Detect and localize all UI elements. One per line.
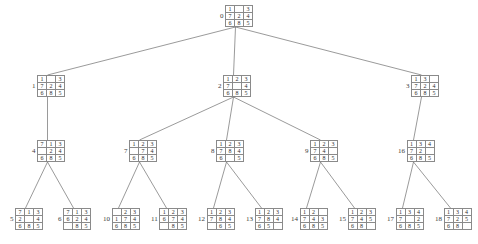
puzzle-tile: 6 bbox=[349, 223, 358, 230]
puzzle-blank-cell bbox=[235, 6, 244, 13]
tree-node: 471324685 bbox=[32, 140, 65, 162]
puzzle-tile: 6 bbox=[224, 90, 233, 97]
puzzle-tile: 4 bbox=[463, 209, 472, 216]
puzzle-blank-cell bbox=[430, 76, 439, 83]
tree-edge bbox=[26, 162, 48, 208]
puzzle-tile: 6 bbox=[301, 223, 310, 230]
puzzle-tile: 3 bbox=[56, 141, 65, 148]
node-id-label: 10 bbox=[103, 216, 112, 223]
puzzle-tile: 5 bbox=[235, 155, 244, 162]
puzzle-tile: 8 bbox=[320, 155, 329, 162]
puzzle-tile: 5 bbox=[226, 223, 235, 230]
puzzle-blank-cell bbox=[226, 155, 235, 162]
puzzle-blank-cell bbox=[208, 223, 217, 230]
puzzle-tile: 7 bbox=[397, 216, 406, 223]
puzzle-tile: 2 bbox=[122, 209, 131, 216]
puzzle-tile: 3 bbox=[131, 209, 140, 216]
puzzle-tile: 8 bbox=[226, 148, 235, 155]
puzzle-tile: 8 bbox=[233, 90, 242, 97]
puzzle-tile: 2 bbox=[226, 141, 235, 148]
puzzle-board: 71324685 bbox=[15, 208, 43, 230]
puzzle-tile: 8 bbox=[47, 90, 56, 97]
puzzle-tile: 2 bbox=[16, 216, 25, 223]
puzzle-tile: 1 bbox=[160, 209, 169, 216]
tree-node: 712374685 bbox=[124, 140, 157, 162]
puzzle-tile: 1 bbox=[311, 141, 320, 148]
puzzle-tile: 7 bbox=[64, 209, 73, 216]
puzzle-blank-cell bbox=[319, 209, 328, 216]
tree-edge bbox=[414, 162, 451, 208]
puzzle-tile: 2 bbox=[47, 83, 56, 90]
tree-node: 1412743685 bbox=[291, 208, 328, 230]
puzzle-tile: 5 bbox=[265, 223, 274, 230]
puzzle-tile: 1 bbox=[445, 209, 454, 216]
tree-node: 1512374568 bbox=[339, 208, 376, 230]
puzzle-tile: 7 bbox=[208, 216, 217, 223]
tree-edge bbox=[403, 162, 414, 208]
puzzle-tile: 2 bbox=[265, 209, 274, 216]
puzzle-tile: 1 bbox=[47, 141, 56, 148]
puzzle-tile: 1 bbox=[408, 141, 417, 148]
puzzle-tile: 6 bbox=[412, 90, 421, 97]
node-id-label: 14 bbox=[291, 216, 300, 223]
puzzle-blank-cell bbox=[25, 216, 34, 223]
puzzle-tile: 2 bbox=[358, 209, 367, 216]
puzzle-tile: 4 bbox=[82, 216, 91, 223]
puzzle-tile: 5 bbox=[82, 223, 91, 230]
puzzle-tile: 4 bbox=[56, 83, 65, 90]
puzzle-tile: 7 bbox=[122, 216, 131, 223]
puzzle-tile: 3 bbox=[367, 209, 376, 216]
puzzle-tile: 7 bbox=[169, 216, 178, 223]
puzzle-tile: 1 bbox=[25, 209, 34, 216]
puzzle-tile: 8 bbox=[421, 90, 430, 97]
node-id-label: 15 bbox=[339, 216, 348, 223]
puzzle-tile: 3 bbox=[242, 76, 251, 83]
puzzle-tile: 8 bbox=[217, 216, 226, 223]
puzzle-tile: 1 bbox=[349, 209, 358, 216]
puzzle-tile: 4 bbox=[226, 216, 235, 223]
puzzle-tile: 2 bbox=[415, 216, 424, 223]
node-id-label: 17 bbox=[387, 216, 396, 223]
puzzle-tile: 5 bbox=[367, 216, 376, 223]
puzzle-tile: 6 bbox=[38, 90, 47, 97]
puzzle-tile: 4 bbox=[148, 148, 157, 155]
puzzle-tile: 5 bbox=[131, 223, 140, 230]
puzzle-blank-cell bbox=[367, 223, 376, 230]
puzzle-tile: 5 bbox=[463, 216, 472, 223]
puzzle-tile: 2 bbox=[310, 209, 319, 216]
puzzle-board: 12378465 bbox=[207, 208, 235, 230]
puzzle-tile: 3 bbox=[406, 209, 415, 216]
tree-edge bbox=[119, 162, 140, 208]
puzzle-tile: 2 bbox=[320, 141, 329, 148]
puzzle-tile: 7 bbox=[38, 83, 47, 90]
tree-node: 1212378465 bbox=[198, 208, 235, 230]
puzzle-tile: 5 bbox=[426, 155, 435, 162]
tree-edge bbox=[414, 97, 422, 140]
puzzle-tile: 6 bbox=[256, 223, 265, 230]
puzzle-tile: 4 bbox=[34, 216, 43, 223]
puzzle-board: 23174685 bbox=[112, 208, 140, 230]
puzzle-tile: 8 bbox=[417, 155, 426, 162]
puzzle-tile: 6 bbox=[217, 155, 226, 162]
puzzle-tile: 8 bbox=[310, 223, 319, 230]
puzzle-tile: 7 bbox=[38, 141, 47, 148]
puzzle-tile: 5 bbox=[34, 223, 43, 230]
puzzle-tile: 4 bbox=[242, 83, 251, 90]
puzzle-blank-cell bbox=[160, 223, 169, 230]
puzzle-tile: 8 bbox=[265, 216, 274, 223]
tree-edge bbox=[214, 162, 227, 208]
tree-edge bbox=[227, 97, 234, 140]
puzzle-tile: 6 bbox=[38, 155, 47, 162]
puzzle-board: 71324685 bbox=[37, 140, 65, 162]
puzzle-tile: 6 bbox=[311, 155, 320, 162]
puzzle-board: 12374568 bbox=[348, 208, 376, 230]
puzzle-blank-cell bbox=[406, 216, 415, 223]
tree-node: 571324685 bbox=[10, 208, 43, 230]
puzzle-tile: 2 bbox=[139, 141, 148, 148]
puzzle-tile: 1 bbox=[73, 209, 82, 216]
puzzle-blank-cell bbox=[233, 83, 242, 90]
node-id-label: 12 bbox=[198, 216, 207, 223]
puzzle-board: 13724685 bbox=[225, 5, 253, 27]
puzzle-tile: 7 bbox=[256, 216, 265, 223]
tree-edge bbox=[140, 162, 167, 208]
